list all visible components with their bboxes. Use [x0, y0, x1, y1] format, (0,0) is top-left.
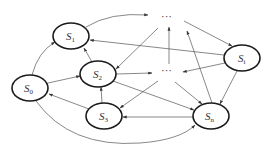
ellipsis-top: ···: [161, 10, 172, 22]
node-s0: S0: [12, 75, 48, 101]
edge-s2-d2: [116, 73, 152, 74]
edge-s0-s2: [48, 76, 80, 83]
state-transition-diagram: S0 S1 S2 S3 Si Sn ··· ···: [0, 0, 270, 151]
node-si: Si: [224, 45, 260, 71]
node-s1: S1: [53, 23, 89, 49]
node-sn: Sn: [193, 103, 229, 129]
node-s3: S3: [86, 103, 122, 129]
edge-d1-s2: [116, 28, 158, 69]
edge-d2-s3: [120, 81, 158, 108]
edge-sn-d1: [187, 31, 212, 103]
edge-s2-sn: [113, 81, 194, 110]
ellipsis-middle: ···: [161, 64, 172, 76]
edge-s0-s1: [32, 42, 55, 75]
edge-si-d2: [183, 63, 225, 72]
edge-si-s1: [90, 40, 224, 55]
edge-d2-sn: [175, 82, 202, 104]
edge-si-sn: [220, 71, 237, 104]
edge-s1-d1: [86, 15, 148, 28]
edge-s2-s1: [84, 48, 92, 62]
edge-s3-s2: [101, 87, 102, 103]
edge-s3-s0: [49, 94, 89, 109]
node-s2: S2: [80, 61, 116, 87]
